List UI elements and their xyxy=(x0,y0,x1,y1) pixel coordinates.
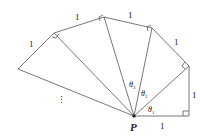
outer-edges xyxy=(18,17,189,116)
side-label-5: 1 xyxy=(75,12,80,22)
side-label-vertical: 1 xyxy=(192,90,197,100)
ray-2 xyxy=(134,28,152,116)
right-angle-markers xyxy=(52,15,189,116)
angle-label-theta2: θ2 xyxy=(141,89,148,99)
continuation-dots: ⋮ xyxy=(57,95,66,105)
point-label: P xyxy=(130,121,137,133)
side-label-4: 1 xyxy=(128,10,133,20)
right-angle-marker xyxy=(183,111,189,116)
side-label-6: 1 xyxy=(29,39,34,49)
hypotenuse-rays xyxy=(18,17,189,116)
ray-3 xyxy=(104,17,134,116)
edge-3 xyxy=(152,28,189,66)
angle-label-theta1: θ1 xyxy=(148,105,155,115)
triangle-spiral-diagram: P 1 1 1 1 1 1 θ1 θ2 θ3 ⋮ xyxy=(0,0,200,138)
right-angle-marker xyxy=(182,62,185,69)
ray-5 xyxy=(18,69,134,116)
side-label-3: 1 xyxy=(174,37,179,47)
point-p xyxy=(132,114,135,117)
edge-6 xyxy=(18,33,54,69)
angle-label-theta3: θ3 xyxy=(129,80,136,90)
side-label-base: 1 xyxy=(160,121,165,131)
ray-4 xyxy=(54,33,134,116)
